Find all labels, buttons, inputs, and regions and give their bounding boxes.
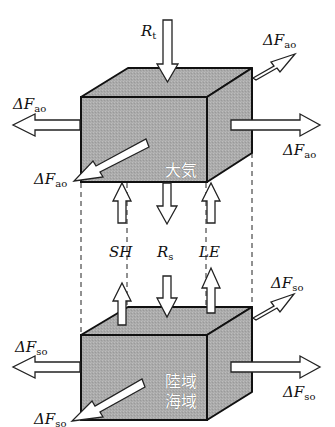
label-fso-left: ΔFso bbox=[15, 340, 47, 357]
arrow-fso-back-right-icon bbox=[253, 294, 294, 320]
label-le: LE bbox=[199, 245, 220, 260]
arrow-rs-upper-down-icon bbox=[157, 183, 177, 224]
label-fao-left: ΔFao bbox=[13, 97, 46, 114]
atmosphere-label: 大気 bbox=[165, 161, 197, 181]
label-fso-back-right: ΔFso bbox=[271, 276, 303, 293]
label-fso-front-left: ΔFso bbox=[34, 412, 66, 427]
arrow-fao-back-right-icon bbox=[253, 54, 295, 80]
label-fao-front-left: ΔFao bbox=[34, 172, 67, 189]
label-rt: Rt bbox=[141, 24, 156, 41]
arrow-sh-upper-up-icon bbox=[113, 183, 131, 223]
label-fao-right: ΔFao bbox=[283, 143, 316, 160]
label-rs: Rs bbox=[157, 245, 173, 262]
arrow-fso-left-icon bbox=[13, 356, 80, 378]
energy-balance-diagram bbox=[0, 0, 335, 427]
surface-label-land: 陸域 bbox=[165, 372, 197, 392]
label-fso-right: ΔFso bbox=[283, 385, 315, 402]
label-sh: SH bbox=[109, 245, 132, 260]
arrow-le-upper-up-icon bbox=[202, 183, 220, 223]
label-fao-back-right: ΔFao bbox=[263, 33, 296, 50]
surface-label: 陸域 海域 bbox=[165, 372, 197, 412]
arrow-fao-left-icon bbox=[13, 114, 80, 136]
surface-label-ocean: 海域 bbox=[165, 392, 197, 412]
